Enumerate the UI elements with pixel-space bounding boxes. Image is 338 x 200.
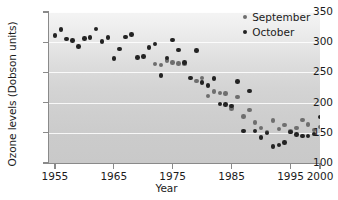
legend-marker-september-icon (243, 15, 247, 19)
data-point-october (194, 48, 199, 53)
data-point-october (82, 36, 87, 41)
data-point-october (271, 144, 276, 149)
data-point-october (112, 56, 117, 61)
data-point-october (123, 35, 128, 40)
chart-legend: September October (243, 10, 310, 40)
data-point-october (88, 35, 93, 40)
data-point-september (300, 118, 305, 123)
x-axis-tick (319, 164, 320, 169)
data-point-september (253, 120, 258, 125)
x-axis-tick-label: 1975 (153, 170, 193, 182)
data-point-october (247, 89, 252, 94)
data-point-october (129, 32, 134, 37)
data-point-september (247, 108, 252, 113)
legend-label-october: October (252, 26, 294, 38)
data-point-october (188, 76, 193, 81)
data-point-september (282, 123, 287, 128)
y-axis-tick (43, 42, 48, 43)
legend-label-september: September (252, 11, 310, 23)
data-point-october (53, 33, 58, 38)
data-point-october (147, 45, 152, 50)
data-point-october (59, 27, 64, 32)
data-point-september (194, 79, 199, 84)
data-point-october (100, 39, 105, 44)
y-axis-tick-label: 150 (295, 126, 333, 138)
data-point-september (241, 114, 246, 119)
x-axis-tick (54, 164, 55, 169)
data-point-september (159, 63, 164, 68)
data-point-october (141, 54, 146, 59)
data-point-september (212, 89, 217, 94)
y-axis-tick (43, 72, 48, 73)
data-point-october (94, 27, 99, 32)
x-axis-tick-label: 1985 (212, 170, 252, 182)
data-point-october (135, 55, 140, 60)
data-point-october (318, 115, 320, 120)
gridline (49, 72, 320, 73)
y-axis-tick-label: 250 (295, 65, 333, 77)
data-point-october (70, 38, 75, 43)
x-axis-line (48, 163, 321, 164)
gridline (49, 103, 320, 104)
legend-item-october: October (243, 25, 310, 39)
data-point-september (235, 95, 240, 100)
x-axis-tick-label: 1955 (35, 170, 75, 182)
data-point-september (277, 127, 282, 132)
data-point-october (153, 42, 158, 47)
data-point-october (265, 131, 270, 136)
y-axis-tick-label: 200 (295, 96, 333, 108)
data-point-september (223, 91, 228, 96)
data-point-september (170, 60, 175, 65)
data-point-october (170, 38, 175, 43)
data-point-october (241, 129, 246, 134)
data-point-october (76, 44, 81, 49)
y-axis-title: Ozone levels (Dobson units) (6, 17, 18, 172)
x-axis-tick-label: 1965 (94, 170, 134, 182)
data-point-october (259, 135, 264, 140)
x-axis-tick (172, 164, 173, 169)
data-point-october (117, 47, 122, 52)
data-point-october (64, 37, 69, 42)
y-axis-line (48, 11, 49, 164)
y-axis-tick-label: 100 (295, 156, 333, 168)
data-point-october (212, 76, 217, 81)
gridline (49, 42, 320, 43)
data-point-october (223, 102, 228, 107)
data-point-october (159, 73, 164, 78)
data-point-october (282, 140, 287, 145)
y-axis-tick (43, 11, 48, 12)
data-point-october (235, 79, 240, 84)
x-axis-tick (113, 164, 114, 169)
y-axis-tick (43, 102, 48, 103)
y-axis-tick (43, 132, 48, 133)
data-point-october (200, 80, 205, 85)
x-axis-tick-label: 2000 (300, 170, 338, 182)
data-point-september (200, 76, 205, 81)
data-point-september (218, 91, 223, 96)
data-point-october (206, 83, 211, 88)
data-point-october (218, 102, 223, 107)
data-point-october (176, 48, 181, 53)
data-point-october (182, 60, 187, 65)
x-axis-tick (231, 164, 232, 169)
data-point-october (106, 35, 111, 40)
data-point-september (206, 94, 211, 99)
data-point-october (277, 143, 282, 148)
x-axis-tick (290, 164, 291, 169)
data-point-september (259, 126, 264, 131)
data-point-september (176, 61, 181, 66)
x-axis-title: Year (0, 182, 333, 194)
legend-marker-october-icon (243, 30, 247, 34)
gridline (49, 133, 320, 134)
legend-item-september: September (243, 10, 310, 24)
data-point-september (271, 118, 276, 123)
data-point-september (153, 62, 158, 67)
y-axis-tick (43, 162, 48, 163)
